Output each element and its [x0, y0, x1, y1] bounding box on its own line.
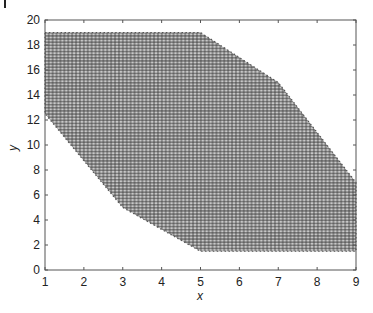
y-tick-label: 0 — [33, 263, 40, 277]
feasible-region-points — [45, 20, 356, 270]
y-tick-label: 10 — [27, 138, 41, 152]
y-tick-label: 6 — [33, 188, 40, 202]
y-tick-label: 4 — [33, 213, 40, 227]
y-tick-label: 8 — [33, 163, 40, 177]
y-axis-label: y — [6, 144, 20, 152]
x-tick-label: 1 — [42, 275, 49, 289]
y-tick-label: 2 — [33, 238, 40, 252]
x-tick-label: 4 — [158, 275, 165, 289]
y-tick-label: 16 — [27, 63, 41, 77]
y-tick-label: 20 — [27, 13, 41, 27]
x-tick-label: 9 — [353, 275, 360, 289]
scatter-chart: 12345678902468101214161820 x y — [0, 0, 373, 313]
y-tick-label: 12 — [27, 113, 41, 127]
x-tick-label: 2 — [81, 275, 88, 289]
y-tick-label: 14 — [27, 88, 41, 102]
y-tick-label: 18 — [27, 38, 41, 52]
x-axis-label: x — [196, 289, 204, 303]
x-tick-label: 6 — [236, 275, 243, 289]
x-tick-label: 8 — [314, 275, 321, 289]
x-tick-label: 3 — [119, 275, 126, 289]
x-tick-label: 5 — [197, 275, 204, 289]
x-tick-label: 7 — [275, 275, 282, 289]
